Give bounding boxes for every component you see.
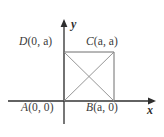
vertex-label-c-point: C <box>86 35 94 47</box>
vertex-label-a-coords: (0, 0) <box>28 101 54 113</box>
vertex-label-b-coords: (a, 0) <box>93 101 118 113</box>
y-axis-label: y <box>71 17 76 32</box>
diagram-canvas <box>0 0 164 137</box>
vertex-label-a: A(0, 0) <box>21 101 54 113</box>
y-axis-arrowhead <box>61 19 68 27</box>
vertex-label-d-coords: (0, a) <box>27 35 52 47</box>
vertex-label-d: D(0, a) <box>19 35 52 47</box>
coordinate-square-diagram: D(0, a) C(a, a) A(0, 0) B(a, 0) x y <box>0 0 164 137</box>
vertex-label-b: B(a, 0) <box>86 101 118 113</box>
vertex-label-c: C(a, a) <box>86 35 118 47</box>
x-axis-label: x <box>147 103 153 118</box>
vertex-label-c-coords: (a, a) <box>94 35 118 47</box>
